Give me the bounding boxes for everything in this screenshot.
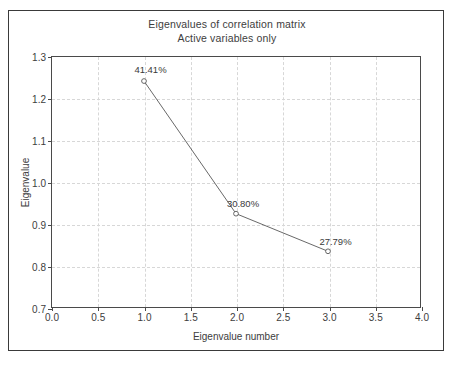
- eigenvalue-series: [52, 57, 420, 307]
- x-axis-tick-label: 4.0: [415, 312, 429, 323]
- y-axis-title-text: Eigenvalue: [21, 157, 32, 206]
- x-axis-tick: [98, 307, 99, 311]
- data-point-label: 30.80%: [227, 198, 259, 209]
- chart-title: Eigenvalues of correlation matrix: [9, 17, 445, 31]
- x-axis-tick: [145, 307, 146, 311]
- x-axis-tick-label: 0.0: [45, 312, 59, 323]
- y-axis-tick-label: 1.0: [32, 178, 46, 189]
- series-line: [144, 81, 328, 251]
- y-axis-tick-label: 0.7: [32, 304, 46, 315]
- y-axis-tick: [48, 309, 52, 310]
- chart-title-block: Eigenvalues of correlation matrix Active…: [9, 17, 445, 45]
- x-axis-tick: [52, 307, 53, 311]
- y-axis-title: Eigenvalue: [19, 56, 33, 308]
- x-axis-tick-label: 3.0: [323, 312, 337, 323]
- x-axis-title: Eigenvalue number: [51, 331, 421, 342]
- x-axis-tick-label: 1.5: [184, 312, 198, 323]
- figure-frame: Eigenvalues of correlation matrix Active…: [8, 10, 444, 351]
- x-axis-tick: [422, 307, 423, 311]
- x-axis-tick: [283, 307, 284, 311]
- y-axis-tick-label: 0.9: [32, 220, 46, 231]
- data-point-label: 41.41%: [134, 64, 166, 75]
- x-axis-tick: [237, 307, 238, 311]
- data-point-marker: [142, 79, 147, 84]
- x-axis-title-text: Eigenvalue number: [193, 331, 279, 342]
- y-axis-tick-label: 1.2: [32, 94, 46, 105]
- data-point-marker: [326, 249, 331, 254]
- x-axis-tick-label: 1.0: [138, 312, 152, 323]
- data-point-label: 27.79%: [319, 236, 351, 247]
- x-axis-tick-label: 2.5: [276, 312, 290, 323]
- data-point-marker: [234, 211, 239, 216]
- x-axis-tick-label: 3.5: [369, 312, 383, 323]
- x-axis-tick-label: 0.5: [91, 312, 105, 323]
- chart-subtitle: Active variables only: [9, 31, 445, 45]
- y-axis-tick-label: 0.8: [32, 262, 46, 273]
- y-axis-tick-label: 1.1: [32, 136, 46, 147]
- x-axis-tick-label: 2.0: [230, 312, 244, 323]
- x-axis-tick: [330, 307, 331, 311]
- x-axis-tick: [376, 307, 377, 311]
- x-axis-tick: [191, 307, 192, 311]
- y-axis-tick-label: 1.3: [32, 52, 46, 63]
- plot-area: 0.00.51.01.52.02.53.03.54.00.70.80.91.01…: [51, 56, 421, 308]
